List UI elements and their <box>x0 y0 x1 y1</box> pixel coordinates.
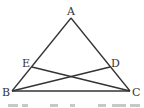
segment-ac <box>71 18 130 91</box>
triangle-diagram: A B C D E <box>0 0 144 108</box>
label-c: C <box>132 86 140 99</box>
segment-ce <box>32 67 130 91</box>
clipped-caption <box>0 103 144 108</box>
segment-bd <box>12 67 110 91</box>
label-b: B <box>2 86 10 99</box>
label-d: D <box>111 57 120 70</box>
label-e: E <box>22 57 30 70</box>
label-a: A <box>66 5 76 18</box>
segment-ab <box>12 18 71 91</box>
